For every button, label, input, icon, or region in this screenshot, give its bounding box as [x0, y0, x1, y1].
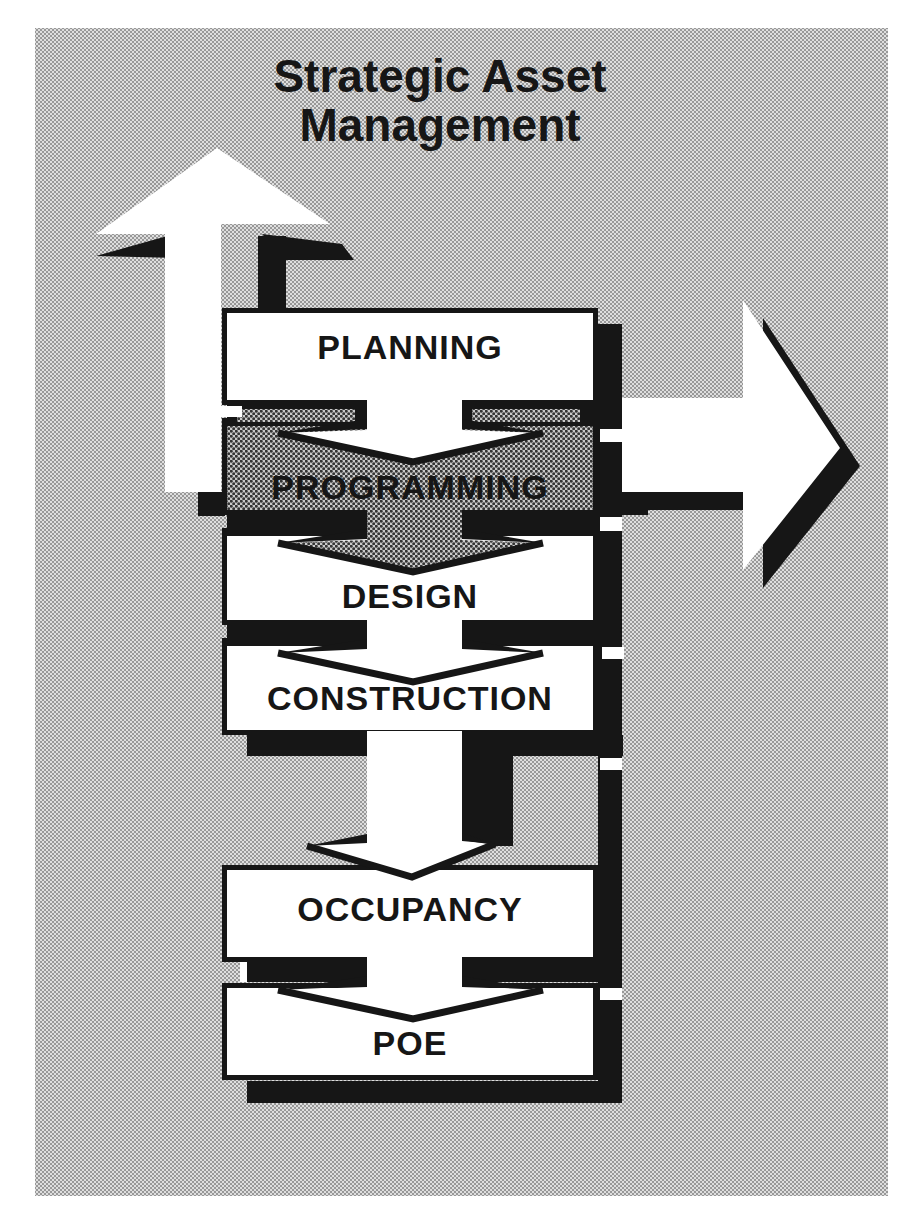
connector-bar-right	[462, 515, 622, 536]
notch	[600, 429, 622, 442]
notch	[600, 517, 622, 531]
notch	[602, 647, 624, 659]
stage-label: DESIGN	[342, 577, 478, 615]
flow-diagram: PLANNING PROGRAMMING DESIGN CONSTRUCTION…	[0, 0, 916, 1230]
stage-occupancy: OCCUPANCY	[225, 868, 596, 960]
connector-bar-right	[462, 625, 622, 646]
stage-label: OCCUPANCY	[297, 890, 523, 928]
up-arrow-shadow-stem-foot	[198, 492, 225, 516]
scanned-diagram-page: Strategic Asset Management	[0, 0, 916, 1230]
stage-label: PROGRAMMING	[271, 468, 548, 506]
notch	[600, 988, 622, 1000]
notch	[600, 758, 622, 770]
stage-label: PLANNING	[317, 328, 503, 366]
notch	[240, 962, 247, 982]
stage-label: POE	[373, 1024, 448, 1062]
connector-bar-right	[462, 962, 622, 982]
connector-bar-inset	[237, 409, 355, 422]
connector-bar-right	[462, 735, 623, 756]
right-arrow-icon	[598, 300, 860, 588]
stage-planning: PLANNING	[225, 311, 596, 403]
notch	[218, 406, 242, 417]
connector-bar-inset	[472, 409, 580, 422]
connector-bar-left	[247, 735, 367, 756]
up-arrow-connector-bar	[258, 236, 286, 312]
connector-construction-occupancy	[247, 731, 623, 877]
long-connector-stem-shadow	[462, 756, 513, 846]
stage-bottom-shadow	[247, 1081, 622, 1103]
